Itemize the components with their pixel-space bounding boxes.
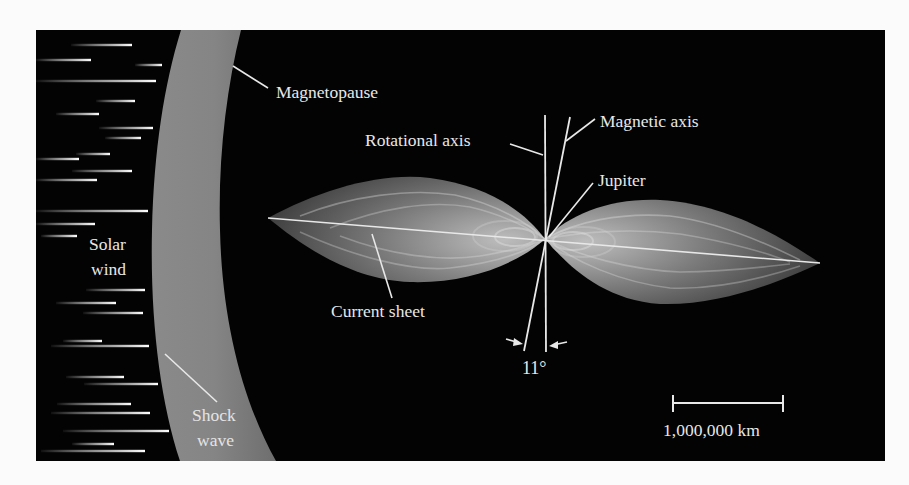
solar-wind-streak [71, 44, 132, 46]
solar-wind-label-line2: wind [91, 259, 126, 279]
solar-wind-streak [51, 345, 149, 347]
solar-wind-streak [72, 443, 114, 445]
solar-wind-streak [63, 430, 169, 432]
solar-wind-streak [84, 383, 158, 385]
tilt-angle-label: 11° [522, 358, 547, 378]
solar-wind-streak [66, 376, 124, 378]
solar-wind-streak [76, 153, 110, 155]
shock-wave-label-line1: Shock [192, 405, 236, 425]
solar-wind-streak [36, 210, 148, 212]
jupiter-magnetosphere-diagram: Magnetopause Rotational axis Magnetic ax… [0, 0, 909, 485]
solar-wind-streak [99, 127, 153, 129]
solar-wind-streak [63, 340, 102, 342]
rotational-axis-line [545, 115, 546, 352]
jupiter-label: Jupiter [598, 170, 646, 190]
solar-wind-streak [96, 100, 135, 102]
solar-wind-streak [36, 59, 91, 61]
scale-bar-label: 1,000,000 km [663, 420, 760, 440]
rotational-axis-label: Rotational axis [365, 130, 471, 150]
solar-wind-streak [56, 302, 116, 304]
solar-wind-streak [56, 113, 99, 115]
solar-wind-label-line1: Solar [89, 234, 126, 254]
shock-wave-label-line2: wave [197, 430, 234, 450]
solar-wind-streak [36, 158, 79, 160]
solar-wind-streak [41, 450, 145, 452]
solar-wind-streak [36, 179, 97, 181]
solar-wind-streak [135, 64, 162, 66]
solar-wind-streak [83, 312, 143, 314]
current-sheet-label: Current sheet [331, 301, 425, 321]
solar-wind-streak [57, 403, 131, 405]
solar-wind-streak [86, 289, 145, 291]
solar-wind-streak [105, 137, 141, 139]
magnetopause-label: Magnetopause [276, 82, 378, 102]
solar-wind-streak [36, 80, 156, 82]
magnetic-axis-label: Magnetic axis [600, 111, 699, 131]
solar-wind-streak [41, 235, 77, 237]
solar-wind-streak [51, 412, 150, 414]
solar-wind-streak [36, 223, 95, 225]
solar-wind-streak [72, 170, 132, 172]
